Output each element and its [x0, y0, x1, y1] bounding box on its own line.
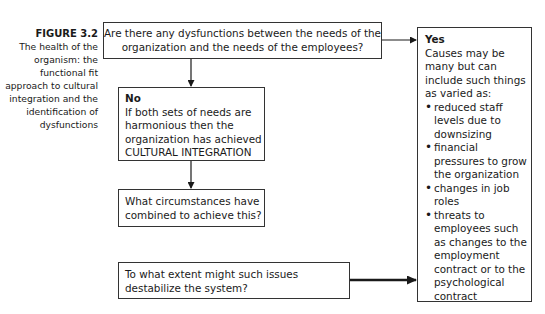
- cause-item: reduced staff levels due to downsizing: [425, 101, 527, 142]
- yes-box: Yes Causes may be many but can include s…: [417, 27, 532, 302]
- question-box: Are there any dysfunctions between the n…: [103, 22, 382, 59]
- cause-item: threats to employees such as changes to …: [425, 209, 527, 304]
- yes-intro: Causes may be many but can include such …: [425, 47, 526, 100]
- causes-list: reduced staff levels due to downsizing f…: [425, 101, 527, 304]
- circumstances-text: What circumstances have combined to achi…: [125, 195, 262, 221]
- circumstances-box: What circumstances have combined to achi…: [118, 189, 265, 227]
- cause-item: financial pressures to grow the organiza…: [425, 141, 527, 182]
- no-box: No If both sets of needs are harmonious …: [118, 87, 265, 161]
- no-text: If both sets of needs are harmonious the…: [125, 106, 262, 159]
- destabilize-box: To what extent might such issues destabi…: [118, 262, 350, 299]
- question-text: Are there any dysfunctions between the n…: [104, 27, 381, 53]
- destabilize-text: To what extent might such issues destabi…: [125, 268, 298, 294]
- yes-heading: Yes: [425, 33, 527, 47]
- cause-item: changes in job roles: [425, 182, 527, 209]
- no-heading: No: [125, 92, 264, 106]
